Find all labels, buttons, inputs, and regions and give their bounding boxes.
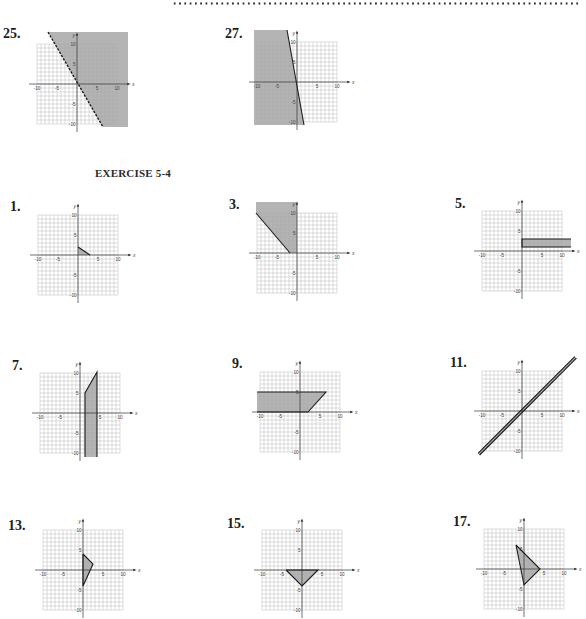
graph-7: xy-10-5510105-5-10 bbox=[15, 348, 145, 478]
x-axis-arrow-icon bbox=[347, 252, 350, 254]
x-tick-label: 5 bbox=[102, 572, 105, 577]
graph-1: xy-10-5510105-5-10 bbox=[13, 190, 143, 320]
y-axis-label: y bbox=[75, 361, 79, 367]
x-axis-label: x bbox=[354, 409, 358, 415]
x-tick-label: -5 bbox=[56, 257, 61, 262]
y-axis-label: y bbox=[78, 518, 82, 524]
x-axis-label: x bbox=[132, 252, 136, 258]
problem-number-7: 7. bbox=[12, 358, 23, 374]
problem-number-3: 3. bbox=[229, 197, 240, 213]
y-tick-label: -10 bbox=[75, 608, 82, 613]
x-tick-label: -10 bbox=[257, 414, 264, 419]
y-axis-arrow-icon bbox=[299, 361, 301, 364]
x-tick-label: 5 bbox=[97, 257, 100, 262]
y-axis-label: y bbox=[72, 32, 76, 38]
x-axis-arrow-icon bbox=[572, 250, 575, 252]
problem-number-5: 5. bbox=[455, 196, 466, 212]
x-tick-label: 10 bbox=[120, 572, 126, 577]
x-tick-label: 5 bbox=[541, 413, 544, 418]
y-axis-label: y bbox=[295, 360, 299, 366]
x-tick-label: 10 bbox=[334, 84, 340, 89]
y-axis-arrow-icon bbox=[523, 518, 525, 521]
x-tick-label: -10 bbox=[479, 253, 486, 258]
y-axis-arrow-icon bbox=[79, 362, 81, 365]
y-tick-label: 5 bbox=[74, 233, 77, 238]
y-tick-label: 5 bbox=[298, 548, 301, 553]
y-tick-label: 5 bbox=[73, 62, 76, 67]
y-tick-label: -10 bbox=[292, 450, 299, 455]
shaded-region bbox=[256, 202, 297, 253]
x-tick-label: 5 bbox=[99, 415, 102, 420]
x-tick-label: 5 bbox=[319, 414, 322, 419]
x-tick-label: -10 bbox=[34, 86, 41, 91]
y-axis-arrow-icon bbox=[301, 519, 303, 522]
y-tick-label: -5 bbox=[516, 429, 521, 434]
y-axis-arrow-icon bbox=[77, 204, 79, 207]
x-axis-arrow-icon bbox=[574, 568, 577, 570]
shaded-region bbox=[257, 392, 326, 412]
x-tick-label: 5 bbox=[541, 253, 544, 258]
y-tick-label: -5 bbox=[296, 588, 301, 593]
x-tick-label: 10 bbox=[561, 571, 567, 576]
y-axis-arrow-icon bbox=[521, 200, 523, 203]
y-axis-label: y bbox=[519, 517, 523, 523]
x-tick-label: -5 bbox=[278, 414, 283, 419]
y-tick-label: -5 bbox=[294, 430, 299, 435]
x-axis-label: x bbox=[137, 567, 141, 573]
x-tick-label: 5 bbox=[321, 572, 324, 577]
x-tick-label: -5 bbox=[55, 86, 60, 91]
x-tick-label: 5 bbox=[316, 84, 319, 89]
x-tick-label: -5 bbox=[500, 413, 505, 418]
y-axis-arrow-icon bbox=[296, 31, 298, 34]
x-axis-label: x bbox=[351, 79, 355, 85]
graph-9: xy-10-5510105-5-10 bbox=[235, 347, 365, 477]
y-tick-label: 10 bbox=[290, 211, 296, 216]
x-axis-label: x bbox=[576, 408, 580, 414]
y-tick-label: -10 bbox=[514, 449, 521, 454]
x-tick-label: 10 bbox=[339, 572, 345, 577]
y-tick-label: 5 bbox=[518, 229, 521, 234]
x-tick-label: 10 bbox=[117, 415, 123, 420]
y-axis-label: y bbox=[292, 201, 296, 207]
y-tick-label: -10 bbox=[72, 451, 79, 456]
x-tick-label: -5 bbox=[61, 572, 66, 577]
x-axis-arrow-icon bbox=[352, 569, 355, 571]
x-tick-label: 10 bbox=[115, 257, 121, 262]
graph-13: xy-10-5510105-5-10 bbox=[18, 505, 148, 619]
y-tick-label: 10 bbox=[76, 528, 82, 533]
dotted-divider bbox=[172, 1, 580, 6]
shaded-region bbox=[85, 372, 97, 457]
y-axis-arrow-icon bbox=[82, 519, 84, 522]
y-tick-label: -10 bbox=[516, 607, 523, 612]
x-tick-label: 10 bbox=[559, 413, 565, 418]
graph-17: xy-10-5510105-5-10 bbox=[459, 504, 586, 619]
x-axis-arrow-icon bbox=[350, 411, 353, 413]
y-tick-label: -10 bbox=[294, 608, 301, 613]
x-tick-label: -5 bbox=[275, 84, 280, 89]
y-tick-label: -10 bbox=[289, 120, 296, 125]
y-tick-label: -10 bbox=[70, 293, 77, 298]
x-axis-label: x bbox=[578, 566, 582, 572]
y-tick-label: 10 bbox=[515, 369, 521, 374]
y-axis-label: y bbox=[297, 518, 301, 524]
y-axis-label: y bbox=[73, 203, 77, 209]
problem-number-13: 13. bbox=[8, 518, 26, 534]
x-tick-label: -5 bbox=[280, 572, 285, 577]
y-tick-label: 5 bbox=[293, 231, 296, 236]
y-tick-label: 10 bbox=[293, 370, 299, 375]
section-title: EXERCISE 5-4 bbox=[95, 167, 171, 179]
y-tick-label: -5 bbox=[291, 100, 296, 105]
x-tick-label: 10 bbox=[114, 86, 120, 91]
graph-11: xy-10-5510105-5-10 bbox=[457, 346, 586, 476]
x-tick-label: -5 bbox=[500, 253, 505, 258]
y-tick-label: -5 bbox=[74, 431, 79, 436]
x-tick-label: -10 bbox=[40, 572, 47, 577]
shaded-region bbox=[48, 32, 128, 127]
shaded-region bbox=[254, 30, 304, 125]
y-tick-label: 10 bbox=[71, 213, 77, 218]
y-tick-label: 5 bbox=[79, 548, 82, 553]
y-tick-label: -5 bbox=[77, 588, 82, 593]
y-tick-label: -5 bbox=[516, 269, 521, 274]
y-tick-label: -10 bbox=[514, 289, 521, 294]
y-tick-label: 10 bbox=[70, 42, 76, 47]
